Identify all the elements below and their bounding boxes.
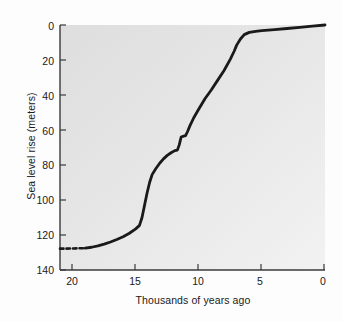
y-tick-label-0: 0 xyxy=(24,21,54,32)
y-tick-label-group: 0 20 40 60 80 100 120 140 xyxy=(20,0,54,322)
y-tick-label-60: 60 xyxy=(24,126,54,137)
plot-background xyxy=(60,25,325,270)
sea-level-dashed-segment xyxy=(60,248,85,249)
y-tick-label-120: 120 xyxy=(24,230,54,241)
x-tick-label-20: 20 xyxy=(57,276,87,287)
y-tick-label-80: 80 xyxy=(24,160,54,171)
y-tick-label-100: 100 xyxy=(24,195,54,206)
sea-level-rise-chart: Sea level rise (meters) Thousands of yea… xyxy=(0,0,343,322)
x-tick-label-5: 5 xyxy=(245,276,275,287)
x-tick-label-group: 20 15 10 5 0 xyxy=(0,276,343,296)
y-tick-label-140: 140 xyxy=(24,265,54,276)
x-tick-label-0: 0 xyxy=(308,276,338,287)
x-tick-label-15: 15 xyxy=(120,276,150,287)
y-tick-label-40: 40 xyxy=(24,91,54,102)
y-tick-label-20: 20 xyxy=(24,56,54,67)
x-tick-label-10: 10 xyxy=(183,276,213,287)
